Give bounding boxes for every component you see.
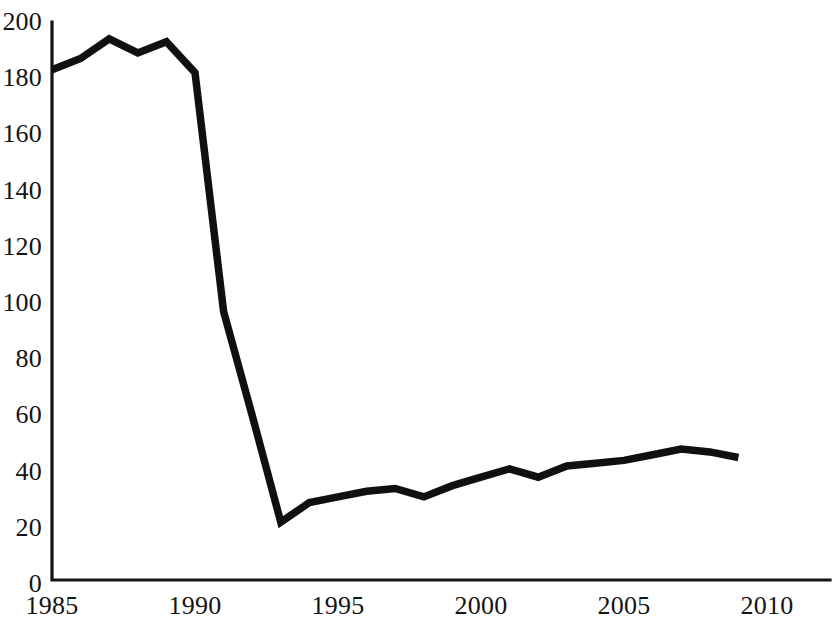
y-tick-label: 40 bbox=[16, 459, 42, 485]
axis-lines bbox=[52, 22, 830, 580]
axes-group bbox=[52, 22, 830, 580]
x-tick-label: 2010 bbox=[741, 593, 794, 619]
x-tick-label: 2005 bbox=[598, 593, 651, 619]
y-tick-label: 200 bbox=[2, 9, 42, 35]
x-tick-label: 2000 bbox=[455, 593, 508, 619]
y-tick-label: 80 bbox=[16, 346, 42, 372]
y-tick-label: 160 bbox=[2, 121, 42, 147]
series-group bbox=[52, 39, 738, 522]
y-tick-label: 20 bbox=[16, 515, 42, 541]
y-tick-label: 60 bbox=[16, 402, 42, 428]
y-tick-label: 140 bbox=[2, 178, 42, 204]
x-tick-label: 1995 bbox=[312, 593, 365, 619]
data-line-series-1 bbox=[52, 39, 738, 522]
y-tick-label: 120 bbox=[2, 234, 42, 260]
chart-canvas bbox=[0, 0, 836, 620]
y-tick-label: 180 bbox=[2, 65, 42, 91]
x-tick-label: 1990 bbox=[169, 593, 222, 619]
y-tick-label: 100 bbox=[2, 290, 42, 316]
x-tick-label: 1985 bbox=[26, 593, 79, 619]
line-chart: 020406080100120140160180200 198519901995… bbox=[0, 0, 836, 620]
